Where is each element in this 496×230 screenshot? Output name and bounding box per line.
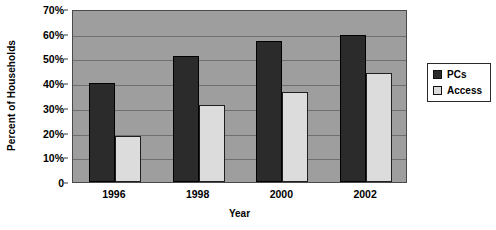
y-axis-tick-label: 60% <box>43 29 64 41</box>
bar-access-2002 <box>366 73 392 182</box>
y-axis-tick-mark <box>64 84 68 85</box>
y-axis-title: Percent of Households <box>0 0 22 190</box>
bar-pcs-1996 <box>89 83 115 182</box>
x-axis-tick-label: 2002 <box>353 188 376 200</box>
y-axis-tick-mark <box>64 59 68 60</box>
x-axis-tick-label: 1998 <box>186 188 209 200</box>
y-axis-tick-mark <box>64 158 68 159</box>
y-axis-title-label: Percent of Households <box>6 39 17 150</box>
bar-pcs-2000 <box>256 41 282 182</box>
y-axis-tick-mark <box>64 34 68 35</box>
bar-pcs-2002 <box>340 35 366 182</box>
y-axis-tick-label: 70% <box>43 4 64 16</box>
legend-item-access: Access <box>433 85 485 96</box>
bar-access-2000 <box>282 92 308 182</box>
bars-layer <box>73 11 406 182</box>
bar-access-1996 <box>115 136 141 182</box>
legend-swatch-icon <box>433 70 442 79</box>
bar-chart: Percent of Households 010%20%30%40%50%60… <box>0 0 496 230</box>
bar-pcs-1998 <box>173 56 199 182</box>
bar-group <box>173 11 225 182</box>
legend-item-label: PCs <box>447 69 466 80</box>
legend-item-pcs: PCs <box>433 69 485 80</box>
legend-swatch-icon <box>433 86 442 95</box>
y-axis-tick-label: 50% <box>43 53 64 65</box>
x-axis-tick-labels: 1996199820002002 <box>72 188 407 204</box>
y-axis-tick-mark <box>64 183 68 184</box>
plot-area <box>72 10 407 183</box>
y-axis-tick-mark <box>64 108 68 109</box>
y-axis-tick-label: 40% <box>43 78 64 90</box>
y-axis-tick-mark <box>64 133 68 134</box>
y-axis-tick-label: 10% <box>43 152 64 164</box>
x-axis-title: Year <box>72 208 407 219</box>
y-axis-tick-label: 30% <box>43 103 64 115</box>
bar-group <box>256 11 308 182</box>
chart-legend: PCsAccess <box>427 63 491 102</box>
x-axis-tick-label: 2000 <box>270 188 293 200</box>
bar-group <box>340 11 392 182</box>
y-axis-tick-mark <box>64 10 68 11</box>
bar-group <box>89 11 141 182</box>
x-axis-tick-label: 1996 <box>102 188 125 200</box>
y-axis-tick-label: 20% <box>43 128 64 140</box>
bar-access-1998 <box>199 105 225 182</box>
legend-item-label: Access <box>447 85 482 96</box>
y-axis-tick-labels: 010%20%30%40%50%60%70% <box>22 10 68 183</box>
